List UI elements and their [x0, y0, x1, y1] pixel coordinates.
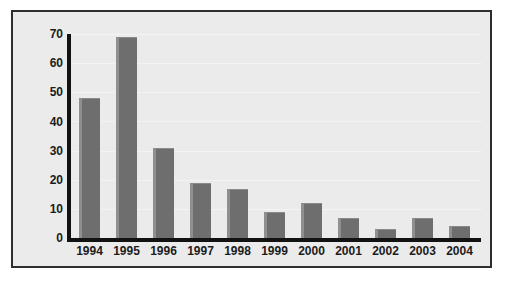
bar-1998[interactable] [227, 189, 248, 239]
x-tick-label-1998: 1998 [219, 244, 256, 258]
bar-series [71, 34, 481, 238]
y-tick-label: 60 [19, 57, 63, 69]
bar-1996[interactable] [153, 148, 174, 238]
bar-slot [182, 34, 219, 238]
bar-2000[interactable] [301, 203, 322, 238]
bar-2003[interactable] [412, 218, 433, 238]
y-tick-label: 30 [19, 145, 63, 157]
x-tick-label-2002: 2002 [367, 244, 404, 258]
x-tick-label-2000: 2000 [293, 244, 330, 258]
bar-slot [367, 34, 404, 238]
bar-slot [108, 34, 145, 238]
bar-chart-figure: 70 60 50 40 30 20 10 0 [0, 0, 518, 286]
bar-slot [219, 34, 256, 238]
x-axis-tick-labels: 1994 1995 1996 1997 1998 1999 2000 2001 … [71, 244, 481, 264]
bar-2001[interactable] [338, 218, 359, 238]
bar-1995[interactable] [116, 37, 137, 238]
plot-area: 70 60 50 40 30 20 10 0 [13, 12, 490, 266]
x-tick-label-2003: 2003 [404, 244, 441, 258]
x-tick-label-1999: 1999 [256, 244, 293, 258]
x-axis-line [67, 238, 481, 242]
bar-slot [293, 34, 330, 238]
x-tick-label-1997: 1997 [182, 244, 219, 258]
x-tick-label-2001: 2001 [330, 244, 367, 258]
bar-2004[interactable] [449, 226, 470, 238]
y-axis-tick-labels: 70 60 50 40 30 20 10 0 [13, 12, 63, 270]
chart-frame: 70 60 50 40 30 20 10 0 [11, 10, 492, 268]
bar-slot [71, 34, 108, 238]
bar-2002[interactable] [375, 229, 396, 238]
bar-1999[interactable] [264, 212, 285, 238]
y-tick-label: 0 [19, 232, 63, 244]
y-tick-label: 10 [19, 203, 63, 215]
bar-slot [145, 34, 182, 238]
bar-1994[interactable] [79, 98, 100, 238]
x-tick-label-1994: 1994 [71, 244, 108, 258]
x-tick-label-1995: 1995 [108, 244, 145, 258]
y-tick-label: 70 [19, 28, 63, 40]
x-tick-label-1996: 1996 [145, 244, 182, 258]
bar-slot [441, 34, 478, 238]
bar-slot [330, 34, 367, 238]
y-tick-label: 40 [19, 116, 63, 128]
x-tick-label-2004: 2004 [441, 244, 478, 258]
y-tick-label: 20 [19, 174, 63, 186]
bar-1997[interactable] [190, 183, 211, 238]
bar-slot [256, 34, 293, 238]
bar-slot [404, 34, 441, 238]
y-tick-label: 50 [19, 86, 63, 98]
